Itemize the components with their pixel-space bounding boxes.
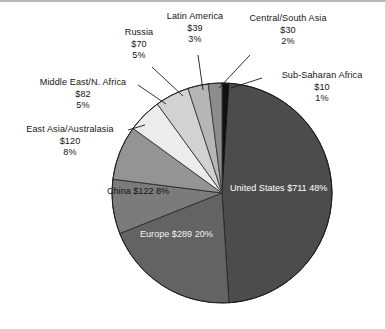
slice-label-east-asia-australasia: East Asia/Australasia $120 8% — [6, 124, 134, 159]
slice-label-middle-east-n-africa-name: Middle East/N. Africa — [22, 77, 144, 89]
slice-label-europe: Europe $289 20% — [140, 228, 204, 241]
slice-label-latin-america: Latin America $39 3% — [156, 11, 234, 46]
slice-label-united-states-percent: 48% — [309, 183, 327, 193]
slice-label-east-asia-australasia-percent: 8% — [6, 147, 134, 159]
slice-label-united-states-name: United States — [230, 183, 285, 193]
slice-label-europe-percent: 20% — [195, 229, 213, 239]
slice-label-europe-name: Europe — [140, 229, 169, 239]
slice-label-middle-east-n-africa: Middle East/N. Africa $82 5% — [22, 77, 144, 112]
slice-label-latin-america-name: Latin America — [156, 11, 234, 23]
slice-label-latin-america-value: $39 — [156, 23, 234, 35]
slice-label-central-south-asia-name: Central/South Asia — [236, 13, 340, 25]
slice-label-sub-saharan-africa-value: $10 — [264, 82, 380, 94]
slice-label-china: China $122 8% — [107, 185, 159, 198]
slice-label-russia-percent: 5% — [108, 50, 170, 62]
leader-line-russia — [152, 67, 183, 96]
slice-label-central-south-asia-value: $30 — [236, 25, 340, 37]
slice-label-sub-saharan-africa-name: Sub-Saharan Africa — [264, 70, 380, 82]
slice-label-china-name: China — [107, 186, 131, 196]
slice-label-central-south-asia-percent: 2% — [236, 36, 340, 48]
slice-label-china-percent: 8% — [156, 186, 169, 196]
slice-label-united-states: United States $711 48% — [230, 182, 314, 195]
slice-label-middle-east-n-africa-value: $82 — [22, 89, 144, 101]
slice-label-europe-value: $289 — [172, 229, 192, 239]
slice-label-china-value: $122 — [133, 186, 153, 196]
pie-chart-canvas — [0, 0, 386, 329]
slice-label-central-south-asia: Central/South Asia $30 2% — [236, 13, 340, 48]
slice-label-sub-saharan-africa: Sub-Saharan Africa $10 1% — [264, 70, 380, 105]
slice-label-latin-america-percent: 3% — [156, 34, 234, 46]
slice-label-east-asia-australasia-name: East Asia/Australasia — [6, 124, 134, 136]
slice-label-sub-saharan-africa-percent: 1% — [264, 93, 380, 105]
slice-label-east-asia-australasia-value: $120 — [6, 136, 134, 148]
slice-label-middle-east-n-africa-percent: 5% — [22, 100, 144, 112]
pie-chart: Russia $70 5% Latin America $39 3% Centr… — [0, 0, 386, 329]
slice-label-united-states-value: $711 — [287, 183, 307, 193]
